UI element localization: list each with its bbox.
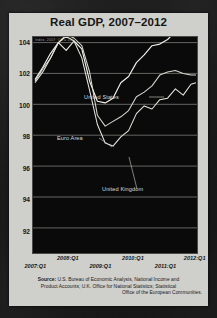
- y-tick-label: 96: [10, 164, 30, 171]
- plot-area: Index, 2007: Q4 = 100: [32, 36, 198, 254]
- source-line-2: Product Accounts; U.K. Office for Nation…: [15, 284, 202, 291]
- x-tick-label: 2009:Q1: [90, 263, 112, 269]
- series-line-united-kingdom: [35, 37, 196, 146]
- chart-figure: Real GDP, 2007–2012 104 102 100 98 96 94…: [9, 13, 208, 306]
- y-tick-label: 102: [10, 70, 30, 77]
- source-label: Source:: [38, 277, 56, 282]
- annotation-united-kingdom: United Kingdom: [102, 186, 143, 192]
- series-line-euro-area: [35, 37, 196, 126]
- y-tick-label: 104: [10, 38, 30, 45]
- chart-svg: [33, 37, 197, 253]
- source-line-3: Office of the European Communities.: [15, 290, 202, 297]
- leader-united-kingdom: [129, 157, 137, 189]
- source-note: Source: U.S. Bureau of Economic Analysis…: [15, 277, 202, 297]
- screenshot-root: Real GDP, 2007–2012 104 102 100 98 96 94…: [0, 0, 217, 318]
- y-tick-label: 100: [10, 101, 30, 108]
- x-tick-label: 2007:Q1: [24, 263, 46, 269]
- annotation-leaders: [99, 97, 164, 189]
- y-tick-label: 98: [10, 133, 30, 140]
- source-line-1: U.S. Bureau of Economic Analysis, Nation…: [57, 277, 179, 282]
- y-tick-label: 94: [10, 196, 30, 203]
- annotation-euro-area: Euro Area: [57, 135, 83, 141]
- annotation-united-states: United States: [84, 94, 119, 100]
- x-tick-label: 2010:Q1: [122, 255, 144, 261]
- y-axis: 104 102 100 98 96 94 92: [9, 36, 30, 254]
- x-tick-label: 2012:Q1: [184, 255, 206, 261]
- x-tick-label: 2008:Q1: [57, 255, 79, 261]
- y-tick-label: 92: [10, 227, 30, 234]
- leader-euro-area: [99, 138, 112, 147]
- x-axis: 2007:Q1 2008:Q1 2009:Q1 2010:Q1 2011:Q1 …: [32, 255, 198, 275]
- chart-title: Real GDP, 2007–2012: [9, 16, 208, 28]
- x-tick-label: 2011:Q1: [155, 263, 176, 269]
